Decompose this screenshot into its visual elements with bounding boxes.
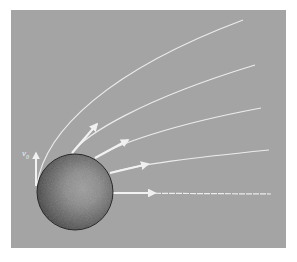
diagram-canvas [0, 0, 297, 262]
velocity-arrow-2 [72, 124, 97, 153]
sphere [37, 154, 113, 230]
velocity-arrow-4 [110, 164, 148, 173]
velocity-label: v0 [22, 148, 29, 160]
trajectory-2 [72, 65, 255, 153]
trajectory-4 [110, 150, 269, 173]
velocity-arrow-3 [95, 140, 128, 158]
trajectory-3 [95, 108, 261, 158]
